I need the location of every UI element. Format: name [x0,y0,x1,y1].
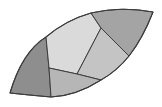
lens-diagram [0,0,162,107]
region-left-dark [10,37,51,97]
